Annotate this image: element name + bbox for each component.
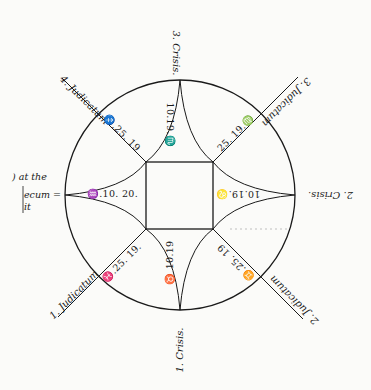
margin-text-line-1: ) at the: [12, 172, 47, 182]
margin-text-line-2: ecum =: [24, 190, 61, 200]
value-right: 10.19.♌: [216, 189, 260, 199]
cusp-bottom: [146, 229, 213, 310]
crisis-right-label: 2. Crisis.: [308, 190, 353, 200]
value-bottom: ♉ 10.19: [165, 241, 175, 285]
crisis-bottom-label: 1. Crisis.: [175, 328, 185, 373]
center-square: [146, 162, 213, 229]
value-left: ♒.10. 20.: [87, 189, 138, 199]
margin-text-line-3: it: [24, 202, 31, 212]
diagram-canvas: 3. Crisis. 2. Crisis. 1. Crisis. 4. Judi…: [0, 0, 371, 390]
cusp-top: [146, 80, 213, 162]
ray-lower-right: [213, 229, 303, 319]
crisis-top-label: 3. Crisis.: [171, 31, 181, 76]
value-top: 10.19.♏: [165, 103, 175, 147]
